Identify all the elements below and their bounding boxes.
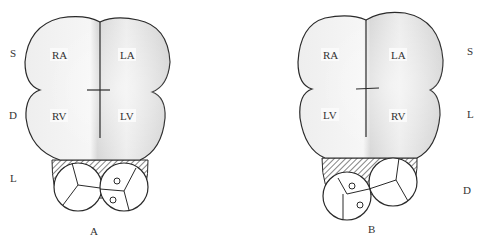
valve-left-a bbox=[54, 163, 102, 211]
chamber-label-rv-b: RV bbox=[391, 110, 405, 122]
chamber-label-la-b: LA bbox=[391, 49, 406, 61]
side-label-d-a: D bbox=[9, 109, 17, 121]
heart-diagram: RA LA RV LV S D L A bbox=[0, 0, 488, 240]
valve-right-b bbox=[369, 158, 417, 206]
side-label-s-a: S bbox=[10, 47, 16, 59]
valve-right-a bbox=[100, 163, 148, 211]
chamber-label-lv-a: LV bbox=[120, 110, 134, 122]
figure-b: RA LA LV RV S L D B bbox=[298, 12, 474, 235]
caption-b: B bbox=[368, 223, 375, 235]
chamber-label-la-a: LA bbox=[120, 49, 135, 61]
chamber-label-rv-a: RV bbox=[52, 110, 66, 122]
valve-left-b bbox=[323, 172, 371, 220]
caption-a: A bbox=[90, 225, 98, 237]
side-label-l-b: L bbox=[467, 108, 474, 120]
chamber-label-lv-b: LV bbox=[323, 109, 337, 121]
side-label-l-a: L bbox=[10, 172, 17, 184]
chamber-label-ra-a: RA bbox=[52, 49, 67, 61]
chamber-label-ra-b: RA bbox=[323, 49, 338, 61]
figure-a: RA LA RV LV S D L A bbox=[9, 17, 170, 237]
side-label-d-b: D bbox=[463, 184, 471, 196]
side-label-s-b: S bbox=[467, 45, 473, 57]
